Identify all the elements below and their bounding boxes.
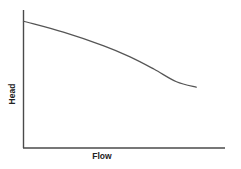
x-axis-label: Flow: [92, 151, 112, 161]
pump-curve-line: [23, 21, 197, 87]
y-axis-label: Head: [7, 84, 17, 105]
head-flow-chart: Flow Head: [0, 0, 241, 169]
